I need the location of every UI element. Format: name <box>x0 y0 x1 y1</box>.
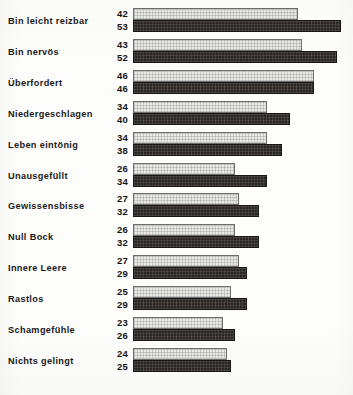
value-label-light: 27 <box>104 255 128 266</box>
bar-light <box>133 39 302 51</box>
value-label-dark: 34 <box>104 176 128 187</box>
chart-row: Rastlos2529 <box>0 285 353 313</box>
bar-dark <box>133 205 259 217</box>
bar-dark <box>133 175 267 187</box>
bar-light <box>133 101 267 113</box>
category-label: Null Bock <box>8 223 106 251</box>
value-labels: 2326 <box>104 316 128 344</box>
bar-light <box>133 193 239 205</box>
bar-light <box>133 286 231 298</box>
bar-dark <box>133 82 314 94</box>
bar-dark <box>133 298 247 310</box>
chart-row: Bin leicht reizbar4253 <box>0 7 353 35</box>
category-label: Bin leicht reizbar <box>8 7 106 35</box>
value-label-dark: 29 <box>104 268 128 279</box>
value-labels: 2732 <box>104 192 128 220</box>
bar-light <box>133 224 235 236</box>
bar-dark <box>133 20 341 32</box>
chart-row: Überfordert4646 <box>0 69 353 97</box>
value-labels: 2425 <box>104 347 128 375</box>
value-label-light: 27 <box>104 193 128 204</box>
bar-dark <box>133 329 235 341</box>
value-label-light: 23 <box>104 317 128 328</box>
bar-light <box>133 163 235 175</box>
value-label-light: 46 <box>104 70 128 81</box>
value-label-dark: 46 <box>104 83 128 94</box>
bar-dark <box>133 360 231 372</box>
category-label: Schamgefühle <box>8 316 106 344</box>
value-label-light: 34 <box>104 101 128 112</box>
chart-row: Niedergeschlagen3440 <box>0 100 353 128</box>
bar-light <box>133 70 314 82</box>
value-label-light: 25 <box>104 286 128 297</box>
value-labels: 2729 <box>104 254 128 282</box>
chart-row: Unausgefüllt2634 <box>0 162 353 190</box>
bar-dark <box>133 113 290 125</box>
value-labels: 4646 <box>104 69 128 97</box>
value-label-dark: 29 <box>104 299 128 310</box>
value-label-dark: 40 <box>104 114 128 125</box>
chart-row: Null Bock2632 <box>0 223 353 251</box>
category-label: Innere Leere <box>8 254 106 282</box>
chart-row: Schamgefühle2326 <box>0 316 353 344</box>
value-label-light: 26 <box>104 163 128 174</box>
bar-chart: Bin leicht reizbar4253Bin nervös4352Über… <box>0 0 353 395</box>
value-labels: 4253 <box>104 7 128 35</box>
chart-row: Nichts gelingt2425 <box>0 347 353 375</box>
value-label-dark: 26 <box>104 330 128 341</box>
value-labels: 2632 <box>104 223 128 251</box>
value-label-light: 24 <box>104 348 128 359</box>
bar-light <box>133 132 267 144</box>
value-labels: 3438 <box>104 131 128 159</box>
category-label: Unausgefüllt <box>8 162 106 190</box>
bar-light <box>133 8 298 20</box>
bar-dark <box>133 144 282 156</box>
bar-dark <box>133 51 337 63</box>
value-label-dark: 52 <box>104 52 128 63</box>
value-labels: 2634 <box>104 162 128 190</box>
chart-row: Bin nervös4352 <box>0 38 353 66</box>
value-labels: 3440 <box>104 100 128 128</box>
category-label: Rastlos <box>8 285 106 313</box>
value-label-dark: 32 <box>104 237 128 248</box>
value-label-dark: 32 <box>104 206 128 217</box>
bar-light <box>133 255 239 267</box>
bar-light <box>133 348 227 360</box>
category-label: Niedergeschlagen <box>8 100 106 128</box>
chart-row: Gewissensbisse2732 <box>0 192 353 220</box>
value-labels: 4352 <box>104 38 128 66</box>
category-label: Überfordert <box>8 69 106 97</box>
chart-row: Leben eintönig3438 <box>0 131 353 159</box>
value-label-light: 43 <box>104 39 128 50</box>
chart-row: Innere Leere2729 <box>0 254 353 282</box>
value-labels: 2529 <box>104 285 128 313</box>
value-label-dark: 25 <box>104 361 128 372</box>
bar-dark <box>133 236 259 248</box>
value-label-light: 42 <box>104 8 128 19</box>
bar-light <box>133 317 223 329</box>
value-label-light: 26 <box>104 224 128 235</box>
category-label: Nichts gelingt <box>8 347 106 375</box>
category-label: Leben eintönig <box>8 131 106 159</box>
category-label: Gewissensbisse <box>8 192 106 220</box>
bar-dark <box>133 267 247 279</box>
category-label: Bin nervös <box>8 38 106 66</box>
value-label-dark: 38 <box>104 145 128 156</box>
value-label-light: 34 <box>104 132 128 143</box>
value-label-dark: 53 <box>104 21 128 32</box>
